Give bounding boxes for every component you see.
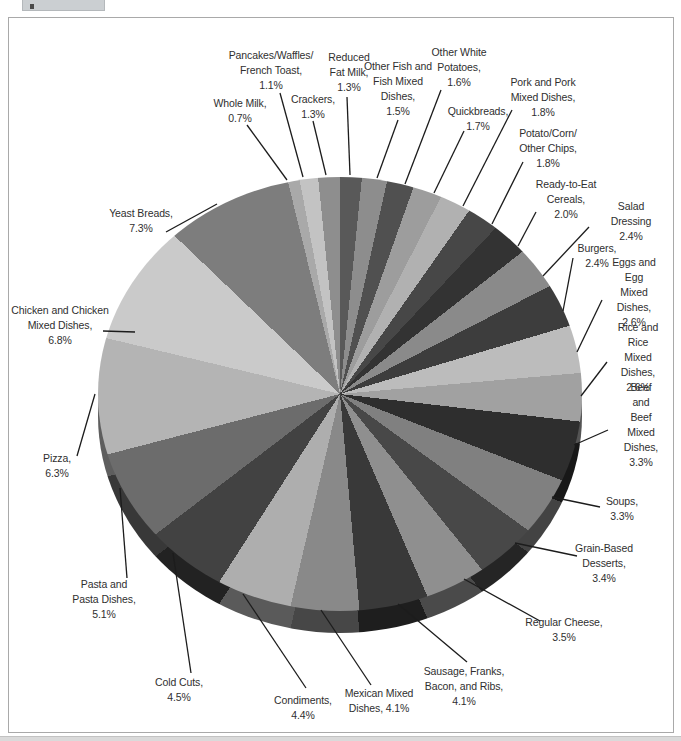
pie-label: Condiments, 4.4% [274,693,332,723]
pie-label: Whole Milk, 0.7% [213,96,266,126]
pie-label: Ready-to-Eat Cereals, 2.0% [536,177,597,222]
pie-label: Cold Cuts, 4.5% [155,675,203,705]
pie-label: Regular Cheese, 3.5% [525,615,602,645]
pie-label: Other White Potatoes, 1.6% [432,45,487,90]
pie-label: Crackers, 1.3% [291,92,335,122]
pie-chart [98,177,582,611]
pie-label: Chicken and Chicken Mixed Dishes, 6.8% [11,303,108,348]
pie-label: Pizza, 6.3% [43,451,71,481]
pie-label: Pork and Pork Mixed Dishes, 1.8% [510,75,575,120]
figure-canvas: Reduced Fat Milk, 1.3%Other Fish and Fis… [0,0,681,741]
pie-label: Quickbreads, 1.7% [448,104,509,134]
pie-label: Mexican Mixed Dishes, 4.1% [345,686,414,716]
pie-label: Soups, 3.3% [606,494,638,524]
figure-tab-remnant [22,0,105,11]
pie-label: Other Fish and Fish Mixed Dishes, 1.5% [364,59,432,119]
pie-label: Potato/Corn/ Other Chips, 1.8% [519,126,577,171]
pie-label: Grain-Based Desserts, 3.4% [575,541,633,586]
pie-label: Sausage, Franks, Bacon, and Ribs, 4.1% [424,664,505,709]
pie-label: Salad Dressing 2.4% [606,199,656,244]
pie-label: Pasta and Pasta Dishes, 5.1% [72,577,135,622]
page-bottom-strip [0,736,681,741]
pie-label: Pancakes/Waffles/ French Toast, 1.1% [229,48,314,93]
pie-label: Eggs and Egg Mixed Dishes, 2.6% [611,255,658,330]
pie-label: Beef and Beef Mixed Dishes, 3.3% [621,380,661,470]
pie-label: Yeast Breads, 7.3% [109,206,173,236]
